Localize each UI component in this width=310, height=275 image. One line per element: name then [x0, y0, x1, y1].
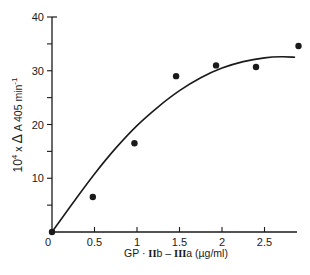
data-point: [295, 43, 301, 49]
y-tick-label: 20: [32, 119, 44, 131]
x-tick-label: 1.5: [172, 236, 187, 248]
y-axis-title: 104 x Δ A 405 min-1: [9, 77, 25, 173]
data-point: [213, 62, 219, 68]
y-tick-label: 40: [32, 11, 44, 23]
data-point: [253, 64, 259, 70]
x-tick-label: 0.5: [87, 236, 102, 248]
x-axis-title: GP · IIb – IIIa (µg/ml): [124, 247, 228, 259]
data-points: [49, 43, 302, 235]
y-axis-ticks: 10203040: [32, 11, 52, 205]
data-point: [131, 140, 137, 146]
y-tick-label: 10: [32, 172, 44, 184]
data-point: [173, 73, 179, 79]
fitted-curve: [52, 57, 295, 232]
y-tick-label: 30: [32, 65, 44, 77]
x-tick-label: 2.5: [257, 236, 272, 248]
data-point: [90, 194, 96, 200]
x-axis-ticks: 00.511.522.5: [45, 227, 272, 248]
data-point: [49, 229, 55, 235]
axes: [52, 17, 297, 232]
chart-canvas: 10203040 00.511.522.5 GP · IIb – IIIa (µ…: [0, 0, 310, 275]
x-tick-label: 0: [45, 236, 51, 248]
